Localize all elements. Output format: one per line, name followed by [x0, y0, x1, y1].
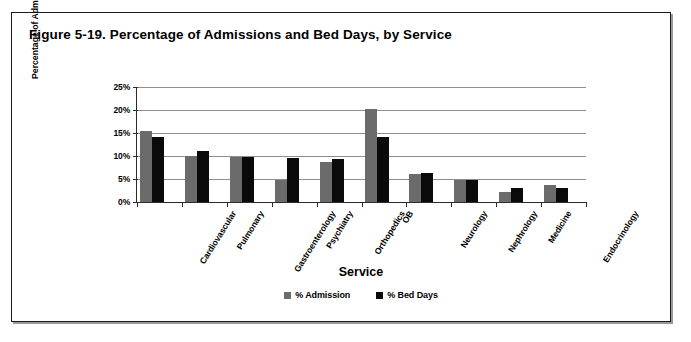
bar [287, 158, 299, 202]
x-axis-category-label: Medicine [545, 209, 573, 245]
x-axis-tick [227, 202, 228, 207]
legend-swatch-icon [376, 292, 383, 299]
bar [377, 137, 389, 202]
x-axis-category-label: Endocrinology [601, 209, 641, 264]
bar [499, 192, 511, 202]
x-axis-tick [362, 202, 363, 207]
plot-area: 0%5%10%15%20%25%CardiovascularPulmonaryG… [136, 87, 586, 203]
x-axis-tick [137, 202, 138, 207]
y-axis-tick-label: 10% [114, 151, 130, 161]
x-axis-tick [451, 202, 452, 207]
x-axis-title: Service [136, 265, 586, 279]
bar [544, 185, 556, 202]
y-axis-tick-label: 0% [118, 197, 130, 207]
bar [511, 188, 523, 202]
x-axis-category-label: Neurology [458, 209, 489, 250]
x-axis-tick [182, 202, 183, 207]
bar-group [317, 87, 362, 202]
bar-chart: Percentage of Admissions or Bed Days 0%5… [12, 13, 672, 323]
legend-entry: % Admission [284, 290, 350, 300]
x-axis-tick [272, 202, 273, 207]
bar [275, 180, 287, 202]
bar-group [137, 87, 182, 202]
x-axis-tick [586, 202, 587, 207]
x-axis-category-label: Cardiovascular [198, 209, 239, 266]
legend-swatch-icon [284, 292, 291, 299]
y-axis-tick-label: 15% [114, 128, 130, 138]
bar-group [362, 87, 407, 202]
x-axis-tick [317, 202, 318, 207]
y-axis-title: Percentage of Admissions or Bed Days [30, 0, 41, 79]
bar-group [227, 87, 272, 202]
bar [556, 188, 568, 202]
y-axis-tick-label: 20% [114, 105, 130, 115]
legend-label: % Bed Days [387, 290, 438, 300]
x-axis-category-label: Nephrology [506, 209, 539, 254]
bar [409, 174, 421, 202]
bar [365, 109, 377, 202]
x-axis-tick [496, 202, 497, 207]
bar [197, 151, 209, 202]
figure-frame: Figure 5-19. Percentage of Admissions an… [11, 12, 671, 322]
bar [466, 180, 478, 202]
x-axis-tick [541, 202, 542, 207]
bar [242, 157, 254, 202]
x-axis-tick [406, 202, 407, 207]
y-axis-tick-label: 25% [114, 82, 130, 92]
bar [152, 137, 164, 202]
chart-legend: % Admission% Bed Days [136, 290, 586, 300]
x-axis-category-label: Pulmonary [235, 209, 267, 251]
bar [320, 162, 332, 202]
bar [421, 173, 433, 202]
bar-group [451, 87, 496, 202]
bar-group [496, 87, 541, 202]
bar-group [182, 87, 227, 202]
bar-group [406, 87, 451, 202]
bar-group [272, 87, 317, 202]
bar [140, 131, 152, 202]
legend-entry: % Bed Days [376, 290, 438, 300]
bar [332, 159, 344, 202]
bar-group [541, 87, 586, 202]
bar [185, 156, 197, 202]
bar [454, 180, 466, 202]
y-axis-tick-label: 5% [118, 174, 130, 184]
legend-label: % Admission [295, 290, 350, 300]
bar [230, 157, 242, 202]
